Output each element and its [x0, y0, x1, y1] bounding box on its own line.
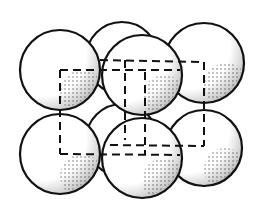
spheres-group	[20, 22, 248, 202]
sphere-packing-diagram	[0, 0, 263, 214]
